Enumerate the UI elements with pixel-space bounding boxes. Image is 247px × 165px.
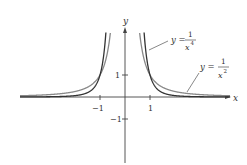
tick-label-y-neg1: −1 <box>110 115 122 124</box>
annotation-x2: y = 1 x 2 <box>199 57 229 80</box>
svg-text:x: x <box>218 71 223 80</box>
svg-text:4: 4 <box>191 40 195 46</box>
y-axis-arrow-icon <box>123 27 127 33</box>
svg-text:1: 1 <box>188 30 193 39</box>
tick-label-x-neg1: −1 <box>92 104 104 113</box>
chart: x y −1 1 1 −1 y = 1 x 4 y = 1 x 2 <box>0 0 247 165</box>
svg-text:x: x <box>185 43 190 52</box>
annotation-leader-x2 <box>187 73 199 92</box>
annotation-x4: y = 1 x 4 <box>170 30 196 52</box>
tick-label-x-pos1: 1 <box>148 104 153 113</box>
y-axis-label: y <box>122 16 129 26</box>
svg-text:y =: y = <box>199 62 215 72</box>
svg-text:2: 2 <box>224 68 228 74</box>
svg-text:y =: y = <box>170 35 186 45</box>
svg-text:1: 1 <box>221 57 226 66</box>
tick-label-y-pos1: 1 <box>115 71 120 80</box>
x-axis-label: x <box>233 93 238 103</box>
annotation-leader-x4 <box>149 41 168 50</box>
